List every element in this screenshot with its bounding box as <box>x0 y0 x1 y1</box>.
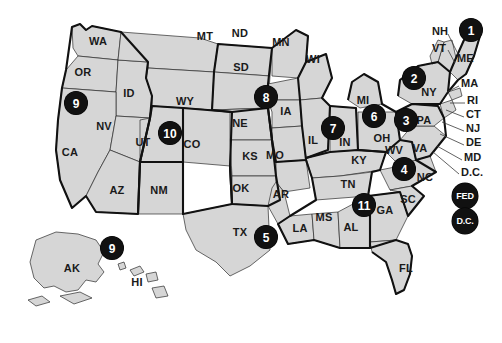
state-label-oh: OH <box>374 133 391 144</box>
state-label-wy: WY <box>176 96 194 107</box>
state-label-nm: NM <box>150 185 168 196</box>
edge-label-dc: D.C. <box>461 167 483 178</box>
state-label-ut: UT <box>135 137 150 148</box>
circuit-badge-5[interactable]: 5 <box>255 226 278 249</box>
state-label-co: CO <box>184 139 201 150</box>
state-label-ky: KY <box>351 155 367 166</box>
state-label-or: OR <box>75 67 92 78</box>
edge-label-nj: NJ <box>466 123 480 134</box>
state-label-sd: SD <box>233 62 249 73</box>
state-label-mn: MN <box>272 37 290 48</box>
state-label-va: VA <box>413 143 428 154</box>
state-label-ks: KS <box>242 151 258 162</box>
circuit-badge-10[interactable]: 10 <box>159 122 182 145</box>
state-label-nc: NC <box>417 172 433 183</box>
circuit-badge-11[interactable]: 11 <box>353 194 376 217</box>
circuit-badge-6[interactable]: 6 <box>363 105 386 128</box>
circuit-badge-9[interactable]: 9 <box>65 92 88 115</box>
state-label-az: AZ <box>109 185 124 196</box>
state-label-al: AL <box>343 222 358 233</box>
circuit-badge-fed[interactable]: FED <box>452 183 478 209</box>
state-label-ak: AK <box>64 263 80 274</box>
state-label-wi: WI <box>306 54 320 65</box>
leader-line-md <box>437 146 462 160</box>
circuit-badge-8[interactable]: 8 <box>255 86 278 109</box>
state-label-hi: HI <box>131 277 142 288</box>
edge-label-ri: RI <box>467 95 478 106</box>
state-label-ia: IA <box>280 106 291 117</box>
circuit-badge-7[interactable]: 7 <box>322 117 345 140</box>
state-label-sc: SC <box>400 194 416 205</box>
state-label-id: ID <box>123 88 134 99</box>
edge-label-ct: CT <box>466 109 481 120</box>
state-label-ny: NY <box>421 87 437 98</box>
state-label-la: LA <box>292 223 307 234</box>
state-label-ne: NE <box>232 118 248 129</box>
edge-label-ma: MA <box>461 78 478 89</box>
edge-label-nh: NH <box>432 26 448 37</box>
leader-line-dc <box>433 152 459 174</box>
state-label-ar: AR <box>273 189 289 200</box>
circuit-badge-9-ak[interactable]: 9 <box>101 237 124 260</box>
circuit-badge-dc[interactable]: D.C. <box>452 208 478 234</box>
circuit-badge-4[interactable]: 4 <box>393 158 416 181</box>
state-label-wa: WA <box>89 36 107 47</box>
judicial-circuits-map: WAORIDMTNDSDMNWINVUTWYCONEIACAAZNMKSMOIL… <box>0 0 502 343</box>
state-label-ca: CA <box>62 147 78 158</box>
state-label-fl: FL <box>399 263 413 274</box>
circuit-badge-3[interactable]: 3 <box>395 109 418 132</box>
edge-label-md: MD <box>464 152 481 163</box>
edge-label-vt: VT <box>432 43 446 54</box>
state-label-tn: TN <box>340 179 355 190</box>
state-label-ga: GA <box>377 205 394 216</box>
state-label-mi: MI <box>357 95 370 106</box>
state-label-tx: TX <box>233 227 247 238</box>
edge-label-me: ME <box>457 53 474 64</box>
state-label-pa: PA <box>417 115 432 126</box>
circuit-badge-2[interactable]: 2 <box>403 67 426 90</box>
state-label-mt: MT <box>197 31 213 42</box>
state-label-in: IN <box>339 137 350 148</box>
circuit-badge-1[interactable]: 1 <box>460 19 483 42</box>
state-label-ms: MS <box>316 212 333 223</box>
state-label-ok: OK <box>233 183 250 194</box>
state-label-wv: WV <box>385 145 403 156</box>
state-label-nv: NV <box>96 121 112 132</box>
edge-label-de: DE <box>466 137 481 148</box>
state-label-il: IL <box>308 135 318 146</box>
state-label-nd: ND <box>232 28 248 39</box>
state-label-mo: MO <box>266 150 284 161</box>
